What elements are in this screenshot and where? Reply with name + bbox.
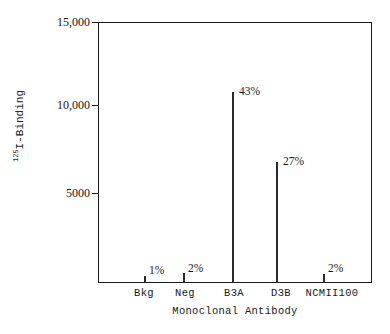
y-axis-label: 125I-Binding <box>12 76 28 176</box>
value-label-d3b: 27% <box>283 155 304 167</box>
y-tick-label-15000: 15,000 <box>28 16 90 28</box>
y-tick-label-10000: 10,000 <box>28 99 90 111</box>
x-axis-label: Monoclonal Antibody <box>98 305 372 317</box>
x-tick-label-d3b: D3B <box>271 287 291 299</box>
value-label-b3a: 43% <box>239 85 260 97</box>
value-label-ncmii100: 2% <box>328 262 343 274</box>
value-label-bkg: 1% <box>149 264 164 276</box>
y-axis-label-text: I-Binding <box>14 90 26 149</box>
bar-neg <box>183 273 185 283</box>
bar-b3a <box>232 92 234 283</box>
bar-ncmii100 <box>323 274 325 283</box>
x-tick-label-neg: Neg <box>175 287 195 299</box>
bar-d3b <box>276 162 278 283</box>
value-label-neg: 2% <box>188 262 203 274</box>
y-tick-label-15000-wrap: 15,000 <box>28 16 90 28</box>
y-axis-label-superscript: 125 <box>12 149 20 162</box>
y-tick-label-10000-wrap: 10,000 <box>28 99 90 111</box>
y-tick-label-5000-wrap: 5000 <box>28 187 90 199</box>
x-tick-label-b3a: B3A <box>224 287 244 299</box>
plot-area <box>98 22 372 283</box>
x-tick-label-bkg: Bkg <box>134 287 154 299</box>
y-tick-label-5000: 5000 <box>28 187 90 199</box>
x-tick-label-ncmii100: NCMII100 <box>306 287 359 299</box>
chart-figure: 125I-Binding 15,000 10,000 5000 1% 2% 43… <box>0 0 390 334</box>
bar-bkg <box>144 276 146 283</box>
